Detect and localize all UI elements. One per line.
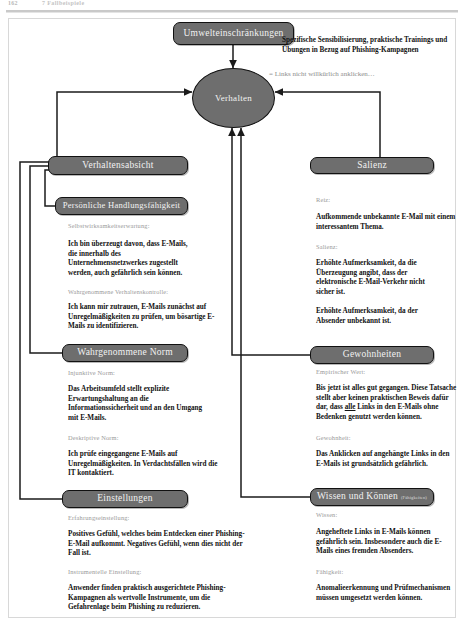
subhead-empirischer-wert: Empirischer Wert:: [316, 368, 365, 375]
node-wissen-und-koennen-sublabel: (Fähigkeiten): [401, 496, 427, 501]
text-selbstwirksamkeitserwartung: Ich bin überzeugt davon, dass E-Mails, d…: [68, 240, 188, 278]
text-deskriptive-norm: Ich prüfe eingegangene E-Mails auf Unreg…: [68, 450, 220, 479]
text-salienz-a: Erhöhte Aufmerksamkeit, da die Überzeugu…: [316, 259, 441, 297]
node-gewohnheiten-label: Gewohnheiten: [343, 350, 401, 360]
node-salienz[interactable]: Salienz: [310, 157, 434, 174]
node-wahrgenommene-norm-label: Wahrgenommene Norm: [77, 348, 173, 358]
text-empirischer-wert-emphasis: alle: [345, 403, 356, 411]
hub-verhalten-label: Verhalten: [215, 93, 252, 103]
text-empirischer-wert: Bis jetzt ist alles gut gegangen. Diese …: [316, 384, 459, 422]
node-einstellungen[interactable]: Einstellungen: [62, 490, 188, 508]
wire-gewohnheiten-to-verhalten: [232, 128, 310, 355]
node-wissen-und-koennen-label: Wissen und Können: [317, 492, 398, 502]
node-verhaltensabsicht[interactable]: Verhaltensabsicht: [48, 156, 188, 175]
text-injunktive-norm: Das Arbeitsumfeld stellt explizite Erwar…: [68, 385, 203, 423]
subhead-erfahrungseinstellung: Erfahrungseinstellung:: [68, 514, 130, 521]
annotation-verhalten-note: = Links nicht willkürlich anklicken…: [269, 70, 375, 79]
wire-verhaltensabsicht-to-verhalten: [57, 92, 192, 163]
diagram-page: 162 7 Fallbeispiele: [0, 0, 466, 626]
node-wissen-und-koennen[interactable]: Wissen und Können (Fähigkeiten): [310, 488, 434, 506]
node-umwelteinschraenkungen-label: Umwelteinschränkungen: [183, 29, 283, 39]
subhead-deskriptive-norm: Deskriptive Norm:: [68, 434, 119, 441]
node-persoenliche-handlungsfaehigkeit[interactable]: Persönliche Handlungsfähigkeit: [55, 197, 188, 215]
node-salienz-label: Salienz: [357, 161, 387, 171]
node-gewohnheiten[interactable]: Gewohnheiten: [310, 346, 434, 364]
subhead-salienz: Salienz:: [316, 243, 338, 250]
subhead-injunktive-norm: Injunktive Norm:: [68, 369, 115, 376]
node-einstellungen-label: Einstellungen: [97, 494, 153, 504]
wire-norm-to-absicht: [30, 166, 72, 353]
subhead-reiz: Reiz:: [316, 196, 330, 203]
subhead-wissen: Wissen:: [316, 511, 337, 518]
text-erfahrungseinstellung: Positives Gefühl, welches beim Entdecken…: [68, 530, 248, 559]
text-instrumentelle-einstellung: Anwender finden praktisch ausgerichtete …: [68, 584, 248, 613]
wire-salienz-to-verhalten: [275, 92, 380, 164]
subhead-faehigkeit: Fähigkeit:: [316, 568, 343, 575]
node-persoenliche-handlungsfaehigkeit-label: Persönliche Handlungsfähigkeit: [63, 201, 181, 210]
subhead-gewohnheit: Gewohnheit:: [316, 434, 351, 441]
text-faehigkeit: Anomalieerkennung und Prüfmechanismen mü…: [316, 584, 456, 603]
text-gewohnheit: Das Anklicken auf angehängte Links in de…: [316, 450, 453, 469]
hub-verhalten[interactable]: Verhalten: [192, 68, 275, 128]
subhead-selbstwirksamkeitserwartung: Selbstwirksamkeitserwartung:: [68, 222, 150, 229]
text-reiz: Aufkommende unbekannte E-Mail mit einem …: [316, 213, 456, 232]
node-wahrgenommene-norm[interactable]: Wahrgenommene Norm: [62, 344, 188, 362]
subhead-instrumentelle-einstellung: Instrumentelle Einstellung:: [68, 568, 141, 575]
annotation-umwelt-note: Spezifische Sensibilisierung, praktische…: [282, 36, 466, 55]
text-wissen: Angeheftete Links in E-Mails können gefä…: [316, 528, 456, 557]
subhead-wahrgenommene-verhaltenskontrolle: Wahrgenommene Verhaltenskontrolle:: [68, 288, 168, 295]
text-wahrgenommene-verhaltenskontrolle: Ich kann mir zutrauen, E-Mails zunächst …: [68, 303, 220, 332]
wire-wissen-to-verhalten: [241, 128, 310, 497]
text-salienz-b: Erhöhte Aufmerksamkeit, da der Absender …: [316, 307, 441, 326]
node-umwelteinschraenkungen[interactable]: Umwelteinschränkungen: [173, 22, 294, 45]
node-verhaltensabsicht-label: Verhaltensabsicht: [82, 161, 153, 171]
